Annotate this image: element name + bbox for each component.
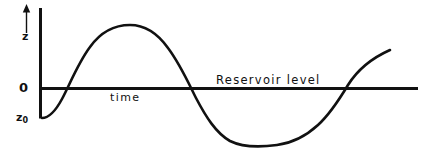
z-direction-arrow-icon bbox=[23, 4, 30, 33]
origin-zero-label: 0 bbox=[19, 81, 28, 94]
reservoir-level-label: Reservoir level bbox=[216, 75, 321, 87]
time-axis-label: time bbox=[110, 92, 140, 103]
z0-subscript: 0 bbox=[22, 116, 28, 125]
initial-level-z0-label: z0 bbox=[16, 112, 28, 123]
z-axis-label: z bbox=[22, 31, 28, 42]
surge-tank-oscillation-figure: z 0 z0 time Reservoir level bbox=[0, 0, 439, 160]
